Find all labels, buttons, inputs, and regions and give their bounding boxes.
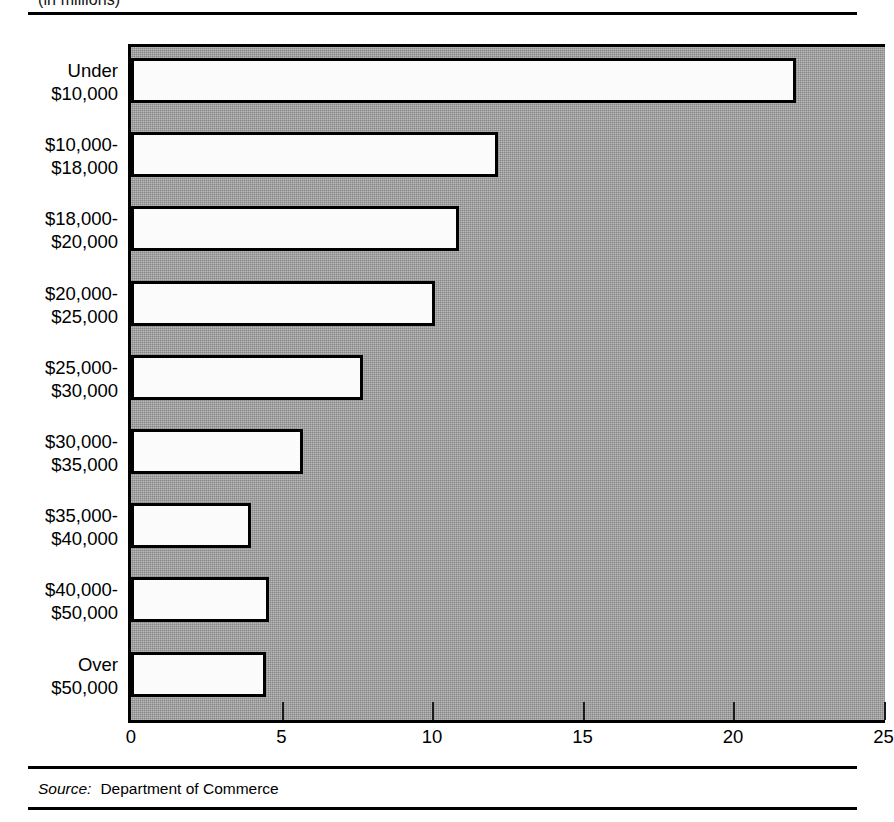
- bar-row: [131, 281, 884, 326]
- category-label: $35,000-$40,000: [0, 504, 118, 550]
- category-label: $30,000-$35,000: [0, 430, 118, 476]
- category-label: $18,000-$20,000: [0, 207, 118, 253]
- category-label-line: $18,000: [0, 156, 118, 179]
- source-value: Department of Commerce: [91, 780, 278, 797]
- bar: [131, 652, 266, 697]
- bar: [131, 429, 303, 474]
- bar-row: [131, 429, 884, 474]
- bar-row: [131, 206, 884, 251]
- category-label-line: $25,000: [0, 305, 118, 328]
- category-label: $10,000-$18,000: [0, 133, 118, 179]
- category-label-line: Over: [0, 653, 118, 676]
- x-tick-label: 10: [422, 726, 443, 748]
- category-label-line: $20,000: [0, 230, 118, 253]
- source-label: Source:: [38, 780, 91, 797]
- category-label-line: $25,000-: [0, 356, 118, 379]
- bar-row: [131, 58, 884, 103]
- bar-row: [131, 577, 884, 622]
- plot-top-border: [128, 44, 885, 47]
- category-label: $20,000-$25,000: [0, 282, 118, 328]
- bar: [131, 355, 363, 400]
- x-tick-label: 20: [723, 726, 744, 748]
- bar-row: [131, 132, 884, 177]
- x-tick-mark: [282, 702, 284, 720]
- category-label-line: $20,000-: [0, 282, 118, 305]
- bar-row: [131, 503, 884, 548]
- bar: [131, 58, 796, 103]
- category-label-line: $10,000-: [0, 133, 118, 156]
- category-label: Over$50,000: [0, 653, 118, 699]
- category-label-line: $35,000: [0, 453, 118, 476]
- divider-middle: [28, 766, 857, 769]
- x-tick-mark: [733, 702, 735, 720]
- bar-row: [131, 652, 884, 697]
- x-axis-line: [128, 720, 885, 723]
- x-tick-mark: [884, 702, 886, 720]
- x-tick-label: 15: [572, 726, 593, 748]
- x-tick-label: 25: [873, 726, 894, 748]
- category-label-line: $40,000: [0, 527, 118, 550]
- bar-row: [131, 355, 884, 400]
- bar-chart: Under$10,000$10,000-$18,000$18,000-$20,0…: [0, 0, 885, 760]
- category-label-line: $40,000-: [0, 578, 118, 601]
- category-label-line: $30,000-: [0, 430, 118, 453]
- bar: [131, 132, 498, 177]
- bar: [131, 503, 251, 548]
- x-tick-label: 5: [276, 726, 286, 748]
- x-tick-label: 0: [126, 726, 136, 748]
- x-tick-mark: [583, 702, 585, 720]
- category-label-line: $50,000: [0, 676, 118, 699]
- bar: [131, 577, 269, 622]
- category-label: $25,000-$30,000: [0, 356, 118, 402]
- divider-bottom: [28, 807, 857, 810]
- bar: [131, 281, 435, 326]
- category-label: Under$10,000: [0, 59, 118, 105]
- category-label-line: $35,000-: [0, 504, 118, 527]
- category-label-line: $10,000: [0, 82, 118, 105]
- category-label-line: $50,000: [0, 601, 118, 624]
- category-label-line: $30,000: [0, 379, 118, 402]
- category-label-line: $18,000-: [0, 207, 118, 230]
- bar: [131, 206, 459, 251]
- source-note: Source:Department of Commerce: [38, 780, 279, 798]
- category-label: $40,000-$50,000: [0, 578, 118, 624]
- category-label-line: Under: [0, 59, 118, 82]
- x-tick-mark: [432, 702, 434, 720]
